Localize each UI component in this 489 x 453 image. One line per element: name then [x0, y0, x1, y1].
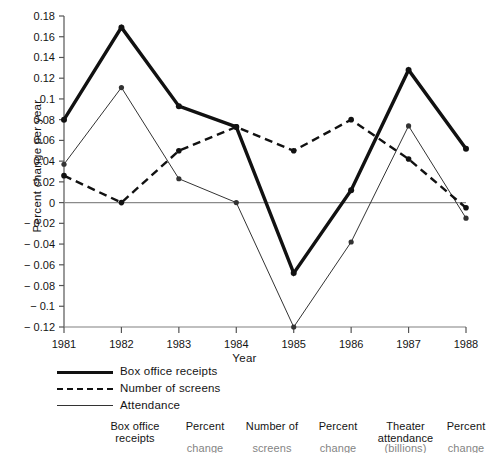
- x-tick-label: 1985: [281, 338, 305, 350]
- y-tick-label: 0.14: [34, 51, 55, 63]
- x-tick-label: 1987: [396, 338, 420, 350]
- x-tick-label: 1986: [339, 338, 363, 350]
- data-point: [61, 117, 67, 123]
- x-tick-label: 1988: [454, 338, 478, 350]
- data-point: [233, 124, 239, 130]
- table-header-second-line-clipped: change screens change (billions) change: [0, 443, 489, 453]
- legend-swatch-thick-solid-icon: [54, 364, 116, 378]
- data-point: [176, 103, 182, 109]
- legend-item-attendance: Attendance: [54, 396, 221, 413]
- data-point: [348, 187, 354, 193]
- data-point: [119, 200, 125, 206]
- y-tick-label: − 0.1: [30, 300, 55, 312]
- table-header-cell-2: change: [174, 443, 236, 453]
- y-tick-label: 0.18: [34, 10, 55, 22]
- data-point: [234, 200, 239, 205]
- series-line-box-office-receipts: [64, 27, 466, 273]
- table-header-cell-2: screens: [236, 443, 308, 453]
- table-header-cell: Number of: [236, 421, 308, 444]
- data-point: [61, 173, 67, 179]
- data-point: [291, 270, 297, 276]
- legend-label-number-of-screens: Number of screens: [116, 382, 221, 394]
- data-point: [176, 176, 181, 181]
- data-point: [291, 148, 297, 154]
- y-axis-label: Percent change per year: [31, 66, 43, 266]
- data-point: [118, 24, 124, 30]
- data-point: [348, 117, 354, 123]
- data-point: [349, 239, 354, 244]
- table-header-cell-2: [96, 443, 174, 453]
- data-point: [291, 324, 296, 329]
- y-tick-label: − 0.08: [24, 280, 55, 292]
- chart-figure: 0.180.160.140.120.10.080.060.040.020− 0.…: [0, 0, 489, 453]
- x-tick-label: 1981: [52, 338, 76, 350]
- data-point: [406, 156, 412, 162]
- data-point: [463, 216, 468, 221]
- data-point: [119, 85, 124, 90]
- y-tick-label: − 0.12: [24, 321, 55, 333]
- x-tick-label: 1984: [224, 338, 248, 350]
- legend-swatch-dashed-icon: [54, 381, 116, 395]
- table-header-cell-2: [0, 443, 96, 453]
- table-header: Box office receipts Percent Number of Pe…: [0, 421, 489, 453]
- data-point: [463, 205, 469, 211]
- series-line-number-of-screens: [64, 120, 466, 208]
- x-tick-label: 1983: [167, 338, 191, 350]
- x-tick-label: 1982: [109, 338, 133, 350]
- table-header-cell-2: (billions): [368, 443, 443, 453]
- chart-legend: Box office receipts Number of screens At…: [54, 362, 221, 413]
- table-header-row: Box office receipts Percent Number of Pe…: [0, 421, 489, 444]
- table-header-cell: Box office receipts: [96, 421, 174, 444]
- legend-label-attendance: Attendance: [116, 399, 180, 411]
- table-header-cell: Percent: [308, 421, 368, 444]
- table-header-cell: Percent: [174, 421, 236, 444]
- table-header-cell-2: change: [443, 443, 489, 453]
- legend-item-number-of-screens: Number of screens: [54, 379, 221, 396]
- data-point: [406, 67, 412, 73]
- y-tick-label: 0.16: [34, 31, 55, 43]
- y-tick-label: 0: [49, 197, 55, 209]
- data-point: [176, 148, 182, 154]
- legend-label-box-office-receipts: Box office receipts: [116, 365, 218, 377]
- data-point: [61, 162, 66, 167]
- table-header-cell: Percent: [443, 421, 489, 444]
- legend-swatch-thin-solid-icon: [54, 398, 116, 412]
- legend-item-box-office-receipts: Box office receipts: [54, 362, 221, 379]
- table-header-cell: [0, 421, 96, 444]
- data-point: [463, 146, 469, 152]
- table-header-cell-2: change: [308, 443, 368, 453]
- series-line-attendance: [64, 88, 466, 327]
- table-header-cell: Theater attendance: [368, 421, 443, 444]
- data-point: [406, 123, 411, 128]
- table-header-row-2: change screens change (billions) change: [0, 443, 489, 453]
